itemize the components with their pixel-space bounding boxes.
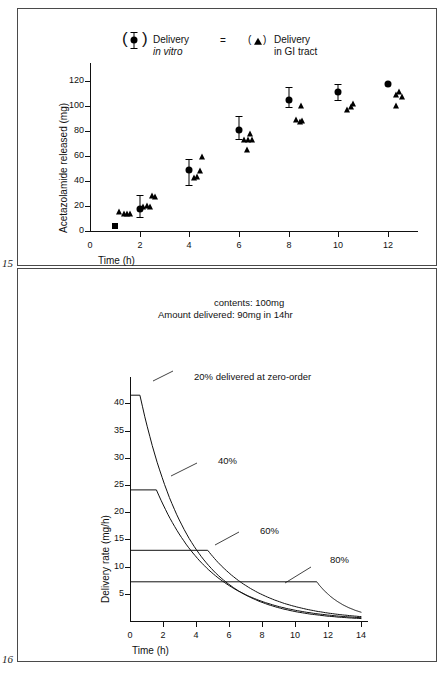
legend-errorbar-cap-top xyxy=(131,32,138,33)
legend-label-1-line2: in vitro xyxy=(153,46,182,57)
leader-20 xyxy=(153,371,173,381)
y-tick xyxy=(85,181,90,182)
error-bar-cap-top xyxy=(335,84,342,85)
legend-errorbar-cap-bottom xyxy=(131,48,138,49)
data-point-gi-tract xyxy=(199,153,205,159)
leader-80 xyxy=(285,567,311,583)
figure-2-plot: 51015202530354002468101214 contents: 100… xyxy=(18,269,436,661)
leader-60 xyxy=(215,532,239,545)
legend-paren-left-1: ( xyxy=(122,29,128,49)
figure-2-y-axis-title: Delivery rate (mg/h) xyxy=(100,515,111,603)
x-tick-label: 0 xyxy=(80,240,100,250)
data-point-in-vitro xyxy=(385,80,392,87)
y-tick xyxy=(85,231,90,232)
x-tick-label: 12 xyxy=(378,240,398,250)
data-point-gi-tract xyxy=(399,94,405,100)
curve-80 xyxy=(130,582,361,613)
data-point-gi-tract xyxy=(127,211,133,217)
data-point-in-vitro xyxy=(186,167,193,174)
x-tick xyxy=(140,232,141,237)
data-point-gi-tract xyxy=(298,102,304,108)
data-point-gi-tract xyxy=(393,102,399,108)
x-tick-label: 4 xyxy=(179,240,199,250)
annotation-curve-40: 40% xyxy=(218,455,237,466)
figure-1-x-axis-title: Time (h) xyxy=(98,255,135,266)
figure-1-y-axis-title: Acetazolamide released (mg) xyxy=(58,103,69,233)
x-tick xyxy=(388,232,389,237)
data-point-gi-tract xyxy=(147,203,153,209)
legend-label-2-line1: Delivery xyxy=(274,34,310,45)
figure-2-x-axis-title: Time (h) xyxy=(132,645,169,656)
y-axis-line xyxy=(90,63,91,231)
error-bar-cap-bottom xyxy=(285,107,292,108)
leader-40 xyxy=(171,463,197,476)
curve-40 xyxy=(130,490,361,618)
legend-separator: = xyxy=(220,35,226,46)
data-point-gi-tract xyxy=(249,136,255,142)
page-number-top: 15 xyxy=(2,257,13,269)
figure-1-legend: ( ) Delivery in vitro = ( ) Delivery in … xyxy=(122,31,362,65)
y-tick xyxy=(85,131,90,132)
curve-60 xyxy=(130,550,361,616)
x-tick xyxy=(338,232,339,237)
x-tick-label: 2 xyxy=(130,240,150,250)
error-bar-cap-top xyxy=(186,159,193,160)
y-tick xyxy=(85,106,90,107)
legend-paren-right-2: ) xyxy=(263,34,266,45)
figure-2-frame: 51015202530354002468101214 contents: 100… xyxy=(17,268,437,662)
x-tick-label: 8 xyxy=(279,240,299,250)
error-bar-cap-bottom xyxy=(186,185,193,186)
data-point-in-vitro xyxy=(236,126,243,133)
y-tick-label: 120 xyxy=(60,75,84,85)
legend-label-1-line1: Delivery xyxy=(153,34,189,45)
legend-errorbar-icon xyxy=(134,32,135,48)
data-point-gi-tract xyxy=(152,193,158,199)
annotation-curve-60: 60% xyxy=(260,525,279,536)
error-bar-cap-top xyxy=(236,116,243,117)
x-tick xyxy=(239,232,240,237)
figure-1-plot: ( ) Delivery in vitro = ( ) Delivery in … xyxy=(18,9,436,265)
annotation-curve-80: 80% xyxy=(330,554,349,565)
data-point-gi-tract xyxy=(299,117,305,123)
legend-paren-right-1: ) xyxy=(142,29,148,49)
legend-label-2-line2: in GI tract xyxy=(274,46,317,57)
data-point-in-vitro xyxy=(285,96,292,103)
data-point-gi-tract xyxy=(350,100,356,106)
data-point-gi-tract xyxy=(194,173,200,179)
x-tick xyxy=(189,232,190,237)
figure-1-frame: ( ) Delivery in vitro = ( ) Delivery in … xyxy=(17,8,437,266)
y-tick xyxy=(85,81,90,82)
data-point-gi-tract xyxy=(244,147,250,153)
data-point-square xyxy=(112,223,118,229)
error-bar-cap-bottom xyxy=(136,217,143,218)
data-point-gi-tract xyxy=(197,167,203,173)
error-bar-cap-top xyxy=(136,195,143,196)
annotation-amount-delivered: Amount delivered: 90mg in 14hr xyxy=(158,309,293,320)
x-tick-label: 6 xyxy=(229,240,249,250)
y-tick xyxy=(85,156,90,157)
data-point-in-vitro xyxy=(335,89,342,96)
legend-triangle-icon xyxy=(254,38,262,45)
page-number-bottom: 16 xyxy=(2,653,13,665)
y-tick xyxy=(85,206,90,207)
x-tick-label: 10 xyxy=(328,240,348,250)
annotation-curve-20: 20% delivered at zero-order xyxy=(194,371,311,382)
legend-paren-left-2: ( xyxy=(248,34,251,45)
annotation-contents: contents: 100mg xyxy=(214,297,284,308)
error-bar-cap-bottom xyxy=(335,100,342,101)
x-tick xyxy=(289,232,290,237)
error-bar-cap-top xyxy=(285,87,292,88)
